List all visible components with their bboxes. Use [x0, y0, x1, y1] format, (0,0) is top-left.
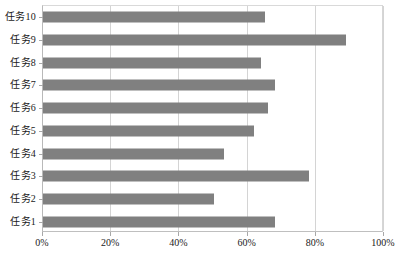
bar[interactable] — [43, 103, 268, 114]
y-axis-tick — [39, 222, 43, 223]
bar[interactable] — [43, 193, 214, 204]
y-axis-label: 任务1 — [10, 215, 36, 226]
y-axis-label: 任务8 — [10, 56, 36, 67]
y-axis-tick — [39, 63, 43, 64]
y-axis-label: 任务9 — [10, 34, 36, 45]
y-axis-label: 任务4 — [10, 147, 36, 158]
bar-row — [43, 120, 382, 143]
bar[interactable] — [43, 125, 254, 136]
bar[interactable] — [43, 216, 275, 227]
bar[interactable] — [43, 80, 275, 91]
y-axis-tick — [39, 17, 43, 18]
x-axis-label: 0% — [35, 236, 48, 249]
x-axis-label: 80% — [306, 236, 324, 249]
plot-area — [42, 5, 383, 232]
y-axis-tick — [39, 108, 43, 109]
y-axis-label: 任务2 — [10, 192, 36, 203]
y-axis-label: 任务5 — [10, 124, 36, 135]
y-axis-tick — [39, 199, 43, 200]
y-axis-labels: 任务10任务9任务8任务7任务6任务5任务4任务3任务2任务1 — [0, 5, 39, 232]
y-axis-label: 任务10 — [5, 11, 36, 22]
x-axis-label: 100% — [371, 236, 394, 249]
x-axis-label: 40% — [169, 236, 187, 249]
x-axis-label: 60% — [237, 236, 255, 249]
y-axis-tick — [39, 176, 43, 177]
bar[interactable] — [43, 35, 346, 46]
bar[interactable] — [43, 57, 261, 68]
bars-layer — [43, 6, 382, 231]
bar[interactable] — [43, 12, 265, 23]
bar-row — [43, 97, 382, 120]
x-axis-labels: 0%20%40%60%80%100% — [42, 236, 383, 252]
bar-row — [43, 29, 382, 52]
bar-row — [43, 6, 382, 29]
bar-row — [43, 142, 382, 165]
y-axis-tick — [39, 131, 43, 132]
y-axis-label: 任务7 — [10, 79, 36, 90]
bar-row — [43, 165, 382, 188]
bar-row — [43, 210, 382, 233]
bar[interactable] — [43, 148, 224, 159]
y-axis-tick — [39, 154, 43, 155]
bar-row — [43, 51, 382, 74]
y-axis-tick — [39, 40, 43, 41]
bar-chart: 任务10任务9任务8任务7任务6任务5任务4任务3任务2任务1 0%20%40%… — [0, 0, 402, 260]
y-axis-tick — [39, 85, 43, 86]
gridline — [383, 6, 384, 231]
bar-row — [43, 188, 382, 211]
bar[interactable] — [43, 171, 309, 182]
bar-row — [43, 74, 382, 97]
y-axis-label: 任务6 — [10, 102, 36, 113]
x-axis-label: 20% — [101, 236, 119, 249]
y-axis-label: 任务3 — [10, 170, 36, 181]
